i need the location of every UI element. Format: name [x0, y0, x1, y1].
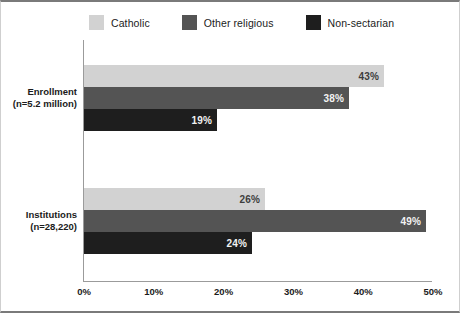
y-axis-label-group-2: Institutions(n=28,220)	[26, 209, 77, 233]
bar-value-label: 26%	[239, 194, 260, 205]
bar-value-label: 38%	[323, 93, 344, 104]
x-axis-tick-0: 0%	[77, 286, 91, 297]
x-axis-line	[83, 281, 432, 282]
legend-swatch-other-religious	[182, 15, 197, 30]
y-axis-labels: Enrollment(n=5.2 million)Institutions(n=…	[1, 40, 77, 282]
y-axis-label-line2: (n=5.2 million)	[13, 98, 77, 110]
bar-catholic-group-2: 26%	[84, 188, 265, 210]
legend-label-catholic: Catholic	[111, 17, 150, 29]
y-axis-label-line1: Institutions	[26, 209, 77, 221]
x-axis-tick-40: 40%	[354, 286, 373, 297]
legend-label-other-religious: Other religious	[204, 17, 274, 29]
x-axis-tick-labels: 0%10%20%30%40%50%	[83, 286, 443, 302]
bar-other-religious-group-1: 38%	[84, 87, 349, 109]
legend-label-non-sectarian: Non-sectarian	[328, 17, 395, 29]
bar-non-sectarian-group-2: 24%	[84, 232, 252, 254]
legend-item-catholic: Catholic	[89, 15, 150, 30]
legend-swatch-catholic	[89, 15, 104, 30]
bar-other-religious-group-2: 49%	[84, 210, 426, 232]
y-axis-label-line1: Enrollment	[13, 86, 77, 98]
x-axis-tick-20: 20%	[214, 286, 233, 297]
x-axis-tick-10: 10%	[144, 286, 163, 297]
bar-value-label: 49%	[400, 216, 421, 227]
chart-legend: Catholic Other religious Non-sectarian	[89, 15, 394, 30]
bar-value-label: 24%	[226, 238, 247, 249]
y-axis-label-group-1: Enrollment(n=5.2 million)	[13, 86, 77, 110]
bar-value-label: 19%	[191, 115, 212, 126]
bar-catholic-group-1: 43%	[84, 65, 384, 87]
legend-swatch-non-sectarian	[306, 15, 321, 30]
y-axis-label-line2: (n=28,220)	[26, 221, 77, 233]
plot-area: 43%38%19%26%49%24%	[83, 40, 432, 282]
bar-value-label: 43%	[358, 71, 379, 82]
x-axis-tick-50: 50%	[423, 286, 442, 297]
bar-non-sectarian-group-1: 19%	[84, 109, 217, 131]
chart-figure: Catholic Other religious Non-sectarian E…	[0, 0, 460, 313]
legend-item-non-sectarian: Non-sectarian	[306, 15, 395, 30]
x-axis-tick-30: 30%	[284, 286, 303, 297]
legend-item-other-religious: Other religious	[182, 15, 274, 30]
